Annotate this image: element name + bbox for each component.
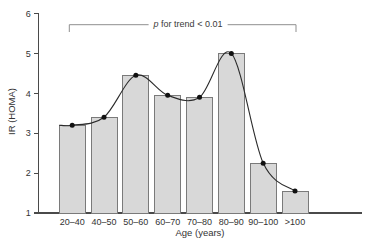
x-tick-label: 50–60 [123,217,148,227]
annotation-text: for trend < 0.01 [159,19,223,29]
bar [91,117,117,213]
x-tick-label: 80–90 [219,217,244,227]
y-tick-label: 2 [26,168,31,178]
x-tick-label: 20–40 [60,217,85,227]
chart: 12345620–4040–5050–6060–7070–8080–9090–1… [0,0,373,251]
x-axis-title: Age (years) [38,227,362,238]
x-tick-label: 90–100 [248,217,278,227]
bar [123,75,149,213]
y-tick-label: 1 [26,208,31,218]
data-point-marker [229,51,234,56]
x-tick-label: 60–70 [155,217,180,227]
x-tick-label: 70–80 [187,217,212,227]
data-point-marker [261,161,266,166]
y-axis-title: IR (HOMA) [6,67,17,157]
y-tick-label: 3 [26,128,31,138]
bar [187,97,213,213]
bar [250,163,276,213]
trend-annotation: p for trend < 0.01 [149,18,228,30]
data-point-marker [197,95,202,100]
bar [59,125,85,213]
data-point-marker [102,115,107,120]
x-tick-label: 40–50 [92,217,117,227]
data-point-marker [293,189,298,194]
y-tick-label: 5 [26,49,31,59]
data-point-marker [70,123,75,128]
bar [155,95,181,213]
figure: 12345620–4040–5050–6060–7070–8080–9090–1… [0,0,373,251]
data-point-marker [133,73,138,78]
bar [282,191,308,213]
y-tick-label: 6 [26,9,31,19]
y-tick-label: 4 [26,89,31,99]
data-point-marker [165,93,170,98]
x-tick-label: >100 [285,217,305,227]
